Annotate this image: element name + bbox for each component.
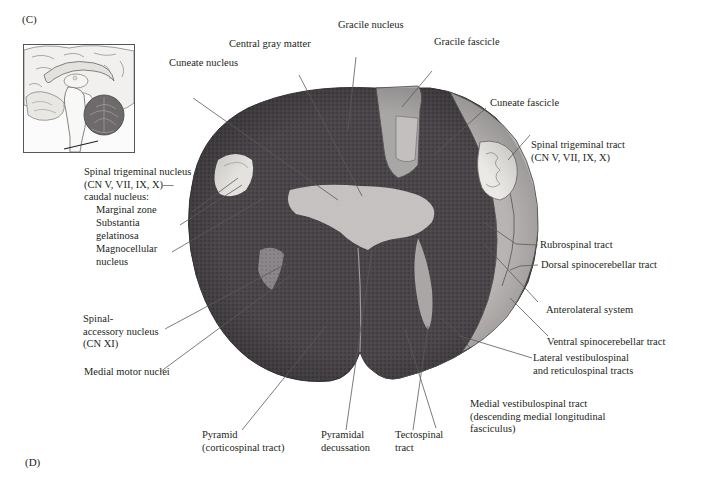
label-medial-vestibulospinal: Medial vestibulospinal tract (descending… (470, 398, 605, 436)
label-gracile-nucleus: Gracile nucleus (338, 19, 404, 32)
label-dorsal-spinocerebellar-tract: Dorsal spinocerebellar tract (541, 259, 657, 272)
section-body (188, 86, 538, 382)
label-anterolateral-system: Anterolateral system (546, 304, 633, 317)
label-medial-motor-nuclei: Medial motor nuclei (84, 366, 170, 379)
label-marginal-zone: Marginal zone (96, 204, 157, 217)
label-tectospinal-tract: Tectospinal tract (395, 429, 443, 454)
label-substantia-gelatinosa: Substantia gelatinosa (96, 217, 140, 242)
label-cuneate-nucleus: Cuneate nucleus (169, 57, 238, 70)
leader-ventral-spinocerebellar (510, 298, 548, 336)
label-cuneate-fascicle: Cuneate fascicle (490, 97, 559, 110)
label-spinal-trigeminal-nucleus: Spinal trigeminal nucleus (CN V, VII, IX… (84, 166, 191, 204)
label-pyramidal-decussation: Pyramidal decussation (321, 429, 370, 454)
label-ventral-spinocerebellar-tract: Ventral spinocerebellar tract (547, 336, 665, 349)
label-rubrospinal-tract: Rubrospinal tract (540, 239, 613, 252)
label-lateral-vestibulospinal: Lateral vestibulospinal and reticulospin… (533, 352, 633, 377)
label-central-gray-matter: Central gray matter (229, 38, 311, 51)
label-spinal-trigeminal-tract: Spinal trigeminal tract (CN V, VII, IX, … (531, 139, 625, 164)
label-pyramid: Pyramid (corticospinal tract) (202, 429, 285, 454)
label-magnocellular-nucleus: Magnocellular nucleus (96, 243, 157, 268)
label-spinal-accessory-nucleus: Spinal- accessory nucleus (CN XI) (83, 313, 159, 351)
label-gracile-fascicle: Gracile fascicle (434, 36, 500, 49)
